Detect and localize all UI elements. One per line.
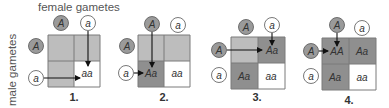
svg-text:3.: 3. <box>252 91 261 103</box>
svg-text:aa: aa <box>171 68 183 79</box>
genotype-aa: aa <box>81 68 93 79</box>
svg-text:A: A <box>215 45 223 56</box>
svg-text:a: a <box>359 23 365 34</box>
svg-text:a: a <box>175 20 181 31</box>
svg-text:Aa: Aa <box>237 71 251 82</box>
svg-text:a: a <box>123 68 129 79</box>
svg-text:2.: 2. <box>159 91 168 103</box>
panel-3: Aa Aa aa A a A a 3. <box>212 18 286 104</box>
svg-text:Aa: Aa <box>328 72 342 83</box>
svg-text:AA: AA <box>329 46 344 57</box>
svg-text:a: a <box>269 20 275 31</box>
svg-text:a: a <box>216 70 222 81</box>
panel-1: aa A a A a 1. <box>29 16 101 104</box>
svg-text:a: a <box>33 73 39 84</box>
svg-text:a: a <box>308 71 314 82</box>
svg-text:A: A <box>32 41 40 52</box>
cell-bottom-left <box>48 61 74 87</box>
punnett-diagram: female gametes male gametes aa A a A a 1… <box>0 0 389 108</box>
female-gametes-label: female gametes <box>38 1 120 13</box>
male-gametes-label: male gametes <box>6 34 18 106</box>
panel-number: 1. <box>69 91 78 103</box>
svg-text:aa: aa <box>265 71 277 82</box>
svg-text:A: A <box>148 19 156 30</box>
svg-text:4.: 4. <box>344 94 353 106</box>
cell-AA <box>48 35 74 61</box>
panel-2: Aa aa A a A a 2. <box>119 17 191 104</box>
svg-text:A: A <box>123 41 131 52</box>
svg-text:Aa: Aa <box>144 68 158 79</box>
svg-text:Aa: Aa <box>355 46 369 57</box>
cell-top-right <box>74 35 100 61</box>
svg-text:A: A <box>333 20 341 31</box>
svg-text:aa: aa <box>356 72 368 83</box>
panel-4: AA Aa Aa aa A a A a 4. <box>304 18 377 107</box>
svg-text:A: A <box>242 22 250 33</box>
svg-text:Aa: Aa <box>265 45 279 56</box>
svg-text:a: a <box>85 18 91 29</box>
svg-text:A: A <box>57 18 65 29</box>
svg-text:A: A <box>307 46 315 57</box>
